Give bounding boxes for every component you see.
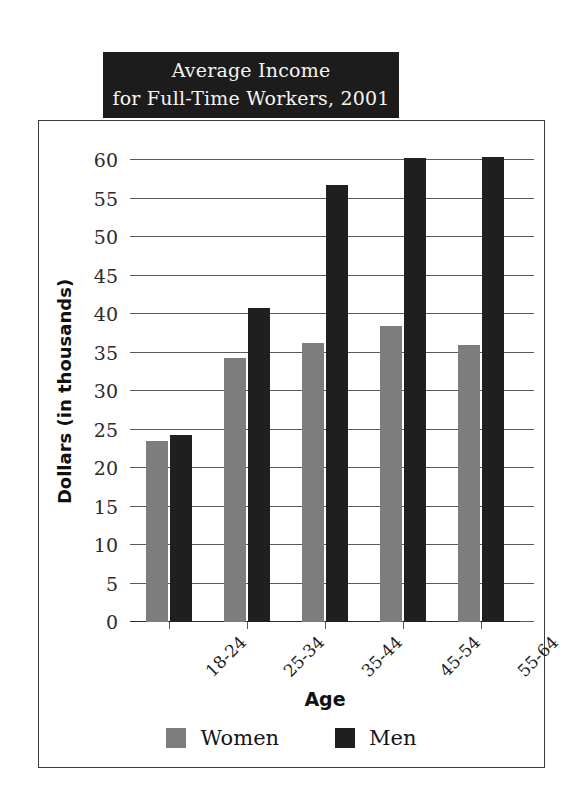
y-axis-tick-mark <box>520 275 534 276</box>
y-axis-tick-label: 50 <box>94 226 118 248</box>
chart-title-banner: Average Income for Full-Time Workers, 20… <box>103 52 399 118</box>
legend-swatch-men <box>335 728 355 748</box>
y-axis-tick-label: 20 <box>94 457 118 479</box>
y-axis-tick-mark <box>520 506 534 507</box>
y-axis-tick-label: 35 <box>94 342 118 364</box>
bar-women-45-54 <box>380 326 402 622</box>
plot-area: 05101520253035404550556018-2425-3435-444… <box>130 160 520 622</box>
y-axis-tick-mark <box>520 544 534 545</box>
y-axis-tick-label: 25 <box>94 419 118 441</box>
y-axis-tick-label: 40 <box>94 303 118 325</box>
x-axis-tick-mark <box>325 622 326 629</box>
y-axis-tick-mark <box>520 198 534 199</box>
legend-label: Women <box>200 726 279 750</box>
bar-men-45-54 <box>404 158 426 622</box>
bar-men-25-34 <box>248 308 270 622</box>
chart-title-line-1: Average Income <box>172 57 331 85</box>
bar-group-35-44 <box>302 160 348 622</box>
x-axis-tick-mark <box>169 622 170 629</box>
y-axis-tick-mark <box>520 583 534 584</box>
legend-swatch-women <box>166 728 186 748</box>
y-axis-tick-mark <box>520 621 534 622</box>
x-axis-tick-mark <box>247 622 248 629</box>
bar-women-55-64 <box>458 345 480 622</box>
legend-label: Men <box>369 726 416 750</box>
bar-women-18-24 <box>146 441 168 622</box>
y-axis-tick-label: 60 <box>94 149 118 171</box>
bar-group-45-54 <box>380 160 426 622</box>
legend-item-women: Women <box>166 726 279 750</box>
x-axis-title: Age <box>130 688 520 710</box>
bar-women-35-44 <box>302 343 324 623</box>
y-axis-tick-mark <box>520 429 534 430</box>
x-axis-tick-mark <box>403 622 404 629</box>
bar-men-55-64 <box>482 157 504 622</box>
y-axis-title: Dollars (in thousands) <box>52 160 78 622</box>
bar-group-25-34 <box>224 160 270 622</box>
y-axis-tick-mark <box>520 313 534 314</box>
chart-legend: WomenMen <box>38 726 545 750</box>
y-axis-tick-label: 45 <box>94 265 118 287</box>
y-axis-tick-label: 55 <box>94 188 118 210</box>
bar-women-25-34 <box>224 358 246 622</box>
chart-title-line-2: for Full-Time Workers, 2001 <box>112 85 389 113</box>
y-axis-tick-mark <box>520 159 534 160</box>
y-axis-tick-mark <box>520 352 534 353</box>
bar-group-55-64 <box>458 160 504 622</box>
y-axis-tick-label: 0 <box>106 611 118 633</box>
y-axis-tick-label: 30 <box>94 380 118 402</box>
y-axis-tick-mark <box>520 236 534 237</box>
y-axis-tick-mark <box>520 467 534 468</box>
x-axis-tick-mark <box>481 622 482 629</box>
legend-item-men: Men <box>335 726 416 750</box>
bar-men-18-24 <box>170 435 192 622</box>
y-axis-tick-mark <box>520 390 534 391</box>
bar-group-18-24 <box>146 160 192 622</box>
bar-men-35-44 <box>326 185 348 622</box>
y-axis-title-text: Dollars (in thousands) <box>55 278 76 503</box>
y-axis-tick-label: 5 <box>106 573 118 595</box>
y-axis-tick-label: 15 <box>94 496 118 518</box>
y-axis-tick-label: 10 <box>94 534 118 556</box>
